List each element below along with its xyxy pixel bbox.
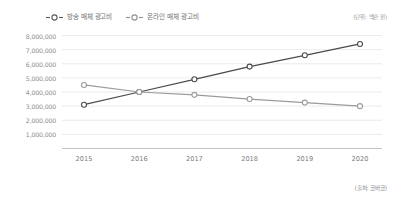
data-point-marker[interactable] [247, 64, 252, 69]
data-point-marker[interactable] [302, 100, 307, 105]
data-point-marker[interactable] [358, 41, 363, 46]
y-tick-label: 3,000,000 [8, 103, 56, 110]
data-point-marker[interactable] [82, 102, 87, 107]
x-tick-label: 2017 [174, 155, 214, 163]
data-point-marker[interactable] [247, 97, 252, 102]
data-point-marker[interactable] [358, 104, 363, 109]
advertising-cost-line-chart: 방송 매체 광고비 온라인 매체 광고비 (단위: 백만 원) 1,000,00… [0, 0, 396, 200]
data-point-marker[interactable] [137, 90, 142, 95]
x-tick-label: 2015 [64, 155, 104, 163]
y-tick-label: 6,000,000 [8, 60, 56, 67]
x-tick-label: 2018 [230, 155, 270, 163]
y-tick-label: 4,000,000 [8, 89, 56, 96]
plot-area: 1,000,0002,000,0003,000,0004,000,0005,00… [0, 0, 396, 200]
data-point-marker[interactable] [192, 77, 197, 82]
y-tick-label: 5,000,000 [8, 74, 56, 81]
y-tick-label: 2,000,000 [8, 117, 56, 124]
series-line-broadcast [84, 44, 360, 105]
x-tick-label: 2019 [285, 155, 325, 163]
data-point-marker[interactable] [192, 92, 197, 97]
y-tick-label: 1,000,000 [8, 131, 56, 138]
data-point-marker[interactable] [302, 53, 307, 58]
y-tick-label: 8,000,000 [8, 32, 56, 39]
x-tick-label: 2020 [340, 155, 380, 163]
plot-canvas [0, 0, 396, 200]
source-note: (출처: 코바코) [355, 183, 387, 192]
y-tick-label: 7,000,000 [8, 46, 56, 53]
x-tick-label: 2016 [119, 155, 159, 163]
data-point-marker[interactable] [82, 82, 87, 87]
